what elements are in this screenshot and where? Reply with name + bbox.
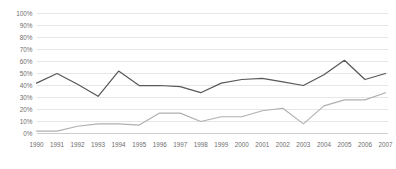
x-axis-tick-label: 2007: [378, 141, 393, 148]
x-axis-tick-label: 2003: [296, 141, 311, 148]
y-axis-tick-label: 40%: [20, 82, 33, 89]
y-axis-tick-label: 50%: [20, 70, 33, 77]
x-axis-tick-label: 2005: [337, 141, 352, 148]
y-axis-tick-label: 100%: [16, 10, 33, 17]
gridlines-group: [37, 14, 388, 134]
x-axis-tick-label: 2002: [276, 141, 291, 148]
y-axis-tick-label: 20%: [20, 106, 33, 113]
x-axis-tick-label: 2001: [255, 141, 270, 148]
x-axis-tick-label: 1992: [71, 141, 86, 148]
y-axis-tick-label: 60%: [20, 58, 33, 65]
y-axis-tick-labels: 100%90%80%70%60%50%40%30%20%10%0%: [16, 10, 33, 137]
y-axis-tick-label: 70%: [20, 46, 33, 53]
x-axis-tick-label: 1999: [214, 141, 229, 148]
x-axis-tick-label: 2000: [235, 141, 250, 148]
x-axis-tick-label: 2004: [317, 141, 332, 148]
data-series-group: [37, 60, 386, 131]
x-axis-tick-label: 1997: [173, 141, 188, 148]
x-axis-tick-label: 1994: [112, 141, 127, 148]
y-axis-tick-label: 10%: [20, 118, 33, 125]
y-axis-tick-label: 90%: [20, 22, 33, 29]
x-axis-tick-labels: 1990199119921993199419951996199719981999…: [29, 141, 393, 148]
line-chart: 100%90%80%70%60%50%40%30%20%10%0% 199019…: [0, 0, 396, 169]
x-axis-tick-label: 1995: [132, 141, 147, 148]
x-axis-tick-label: 2006: [358, 141, 373, 148]
y-axis-tick-label: 30%: [20, 94, 33, 101]
chart-canvas: 100%90%80%70%60%50%40%30%20%10%0% 199019…: [0, 0, 396, 169]
x-axis-tick-label: 1998: [194, 141, 209, 148]
x-axis-tick-label: 1990: [29, 141, 44, 148]
x-axis-tick-label: 1991: [50, 141, 65, 148]
y-axis-tick-label: 80%: [20, 34, 33, 41]
y-axis-tick-label: 0%: [23, 130, 33, 137]
x-axis-tick-label: 1996: [153, 141, 168, 148]
series-line-upper-series: [37, 60, 386, 96]
series-line-lower-series: [37, 93, 386, 131]
x-axis-tick-label: 1993: [91, 141, 106, 148]
